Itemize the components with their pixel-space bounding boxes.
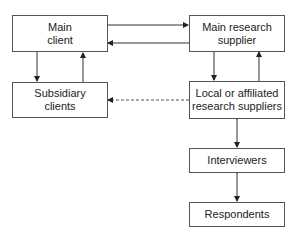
node-label: Respondents (205, 208, 270, 221)
node-local-suppliers: Local or affiliated research suppliers (189, 81, 285, 119)
node-main-research-supplier: Main research supplier (189, 15, 285, 52)
node-subsidiary-clients: Subsidiary clients (12, 82, 108, 118)
node-label: Subsidiary clients (34, 87, 85, 113)
node-label: Local or affiliated research suppliers (192, 87, 282, 113)
node-interviewers: Interviewers (189, 148, 285, 173)
node-main-client: Main client (12, 15, 108, 52)
node-label: Interviewers (207, 154, 266, 167)
node-label: Main client (47, 21, 73, 47)
node-respondents: Respondents (189, 202, 285, 227)
node-label: Main research supplier (202, 21, 272, 47)
